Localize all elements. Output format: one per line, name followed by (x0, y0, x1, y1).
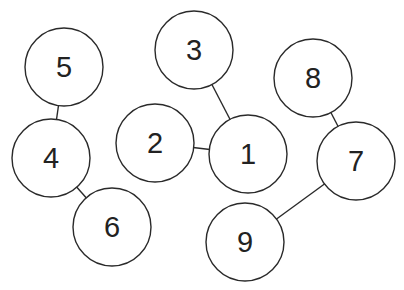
node-label: 4 (43, 142, 59, 174)
node-9: 9 (206, 203, 284, 281)
graph-diagram: 123456789 (0, 0, 404, 290)
node-3: 3 (155, 11, 233, 89)
node-1: 1 (209, 115, 287, 193)
node-2: 2 (116, 104, 194, 182)
node-label: 7 (348, 145, 364, 177)
node-label: 6 (104, 211, 120, 243)
node-8: 8 (274, 39, 352, 117)
node-label: 3 (186, 34, 202, 66)
node-label: 2 (147, 127, 163, 159)
node-5: 5 (25, 28, 103, 106)
node-7: 7 (317, 122, 395, 200)
node-label: 9 (237, 226, 253, 258)
nodes-layer: 123456789 (12, 11, 395, 281)
node-4: 4 (12, 119, 90, 197)
node-label: 8 (305, 62, 321, 94)
node-label: 5 (56, 51, 72, 83)
node-6: 6 (73, 188, 151, 266)
node-label: 1 (240, 138, 256, 170)
